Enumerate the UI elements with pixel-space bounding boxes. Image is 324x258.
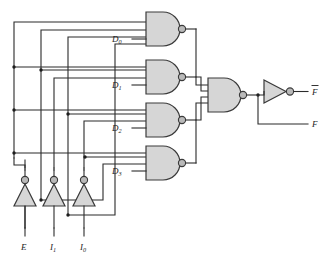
nand-label-D0: D0 xyxy=(111,34,123,45)
inverter-bubble-I0 xyxy=(80,176,87,183)
input-label-I1: I1 xyxy=(49,242,56,253)
circuit-canvas: D0 D1 D2 D3 xyxy=(0,0,324,258)
nand-gate-output[interactable] xyxy=(208,78,258,112)
inverter-I1[interactable] xyxy=(43,170,65,228)
junction-dot xyxy=(12,65,15,68)
logic-circuit-diagram: D0 D1 D2 D3 xyxy=(0,0,324,258)
nand-bubble-D0 xyxy=(178,25,185,32)
junction-dot xyxy=(39,68,42,71)
rail-branch-row1 xyxy=(14,67,146,70)
junction-dot xyxy=(12,151,15,154)
svg-text:F: F xyxy=(311,87,318,97)
output-label-Fbar: F xyxy=(311,86,319,98)
nand-bubble-D2 xyxy=(178,116,185,123)
nand-gate-D0[interactable] xyxy=(146,12,196,46)
junction-dot xyxy=(83,155,86,158)
nand-output-bus xyxy=(196,29,208,163)
inverter-output[interactable] xyxy=(258,80,308,103)
nand-gate-D3[interactable] xyxy=(146,146,196,180)
inverter-bubble-E xyxy=(21,176,28,183)
rail-I1-true xyxy=(41,30,146,200)
inverter-I0[interactable] xyxy=(73,170,95,228)
output-label-F: F xyxy=(311,119,318,129)
junction-dot xyxy=(66,112,69,115)
junction-dot xyxy=(66,213,69,216)
inverter-E[interactable] xyxy=(14,170,36,228)
nand-gate-D2[interactable] xyxy=(146,103,196,137)
junction-dot xyxy=(12,108,15,111)
inverter-bubble-output xyxy=(286,88,293,95)
inverter-bubble-I1 xyxy=(50,176,57,183)
nand-label-D3: D3 xyxy=(111,166,122,177)
rail-branch-row2 xyxy=(14,110,146,114)
input-label-I0: I0 xyxy=(79,242,87,253)
nand-bubble-D3 xyxy=(178,159,185,166)
nand-label-D2: D2 xyxy=(111,123,122,134)
junction-dot xyxy=(39,198,42,201)
nand-bubble-D1 xyxy=(178,73,185,80)
nand-gate-D1[interactable] xyxy=(146,60,196,94)
rail-branch-row3 xyxy=(14,153,146,157)
rail-I0-true xyxy=(68,37,146,215)
input-label-E: E xyxy=(20,242,27,252)
rail-E-bubble-up xyxy=(14,158,25,170)
nand-label-D1: D1 xyxy=(111,80,122,91)
rail-E-inverted xyxy=(14,22,146,158)
nand-bubble-output xyxy=(239,91,246,98)
